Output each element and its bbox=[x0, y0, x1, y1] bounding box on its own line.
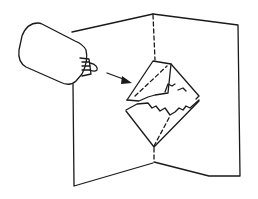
illustration: Glue bottle applying glue to a pop-up ca… bbox=[0, 0, 258, 199]
card-right-panel bbox=[153, 14, 240, 176]
center-fold-line bbox=[153, 15, 155, 160]
glue-bottle-icon bbox=[19, 23, 97, 84]
popup-card-drawing bbox=[0, 0, 258, 199]
arrow-icon bbox=[107, 73, 132, 84]
diamond-pop-up bbox=[126, 61, 199, 147]
